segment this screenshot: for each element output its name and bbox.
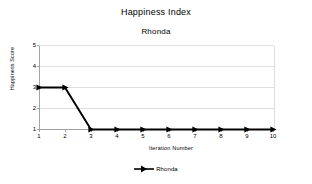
- chart-legend: Rhonda: [0, 165, 312, 175]
- plot-canvas: [0, 0, 312, 184]
- happiness-index-chart: Happiness Index Rhonda Happiness Score I…: [0, 0, 312, 184]
- legend-label: Rhonda: [156, 165, 178, 173]
- plot-area: Happiness Score Iteration Number 5 4 3 2…: [0, 0, 312, 184]
- gridlines: [39, 46, 274, 130]
- legend-item: Rhonda: [134, 165, 178, 173]
- axis-ticks: [37, 46, 274, 133]
- legend-marker-icon: [134, 165, 154, 173]
